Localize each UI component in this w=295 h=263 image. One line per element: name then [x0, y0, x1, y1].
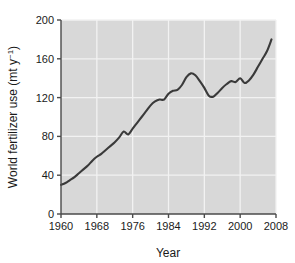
chart-figure: 04080120160200 1960196819761984199220002…	[0, 0, 295, 263]
fertilizer-use-line-chart: 04080120160200 1960196819761984199220002…	[0, 0, 295, 263]
y-axis-title: World fertilizer use (mt y−1)	[6, 46, 20, 188]
x-tick-label: 1992	[192, 220, 216, 232]
y-tick-label: 120	[36, 92, 54, 104]
x-tick-label: 2000	[228, 220, 252, 232]
y-axis-title-group: World fertilizer use (mt y−1)	[6, 46, 20, 188]
y-tick-label: 200	[36, 14, 54, 26]
y-axis-title-closing-paren: )	[6, 46, 20, 50]
x-tick-label: 1976	[120, 220, 144, 232]
y-tick-label: 40	[42, 169, 54, 181]
y-axis-title-main: World fertilizer use (mt y	[6, 59, 20, 188]
y-tick-label: 160	[36, 53, 54, 65]
y-tick-label: 80	[42, 130, 54, 142]
y-tick-label: 0	[48, 208, 54, 220]
x-tick-label: 2008	[264, 220, 288, 232]
x-axis-tick-labels: 1960196819761984199220002008	[49, 220, 288, 232]
x-tick-label: 1960	[49, 220, 73, 232]
x-tick-label: 1968	[85, 220, 109, 232]
x-tick-label: 1984	[156, 220, 180, 232]
x-axis-title: Year	[156, 246, 180, 260]
